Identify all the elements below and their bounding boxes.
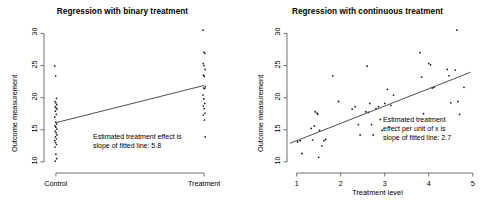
data-point-binary-control-16 <box>56 128 58 130</box>
data-point-continuous-25 <box>372 134 374 136</box>
data-point-continuous-27 <box>378 106 380 108</box>
data-point-continuous-18 <box>357 124 359 126</box>
data-point-continuous-29 <box>381 129 383 131</box>
data-point-continuous-5 <box>313 125 315 127</box>
data-point-continuous-17 <box>354 106 356 108</box>
data-point-continuous-4 <box>312 139 314 141</box>
y-tick-label-binary-20: 20 <box>30 89 39 103</box>
x-tick-label-binary-0: Control <box>36 179 76 188</box>
data-point-continuous-45 <box>456 29 458 31</box>
data-point-binary-control-19 <box>56 134 58 136</box>
data-point-continuous-38 <box>430 64 432 66</box>
y-tick-label-binary-25: 25 <box>30 57 39 71</box>
data-point-binary-control-21 <box>55 138 57 140</box>
data-point-continuous-43 <box>450 102 452 104</box>
data-point-continuous-20 <box>365 111 367 113</box>
data-point-binary-control-2 <box>56 97 58 99</box>
y-tick-label-binary-30: 30 <box>30 25 39 39</box>
data-point-binary-control-9 <box>55 110 57 112</box>
data-point-continuous-15 <box>338 101 340 103</box>
y-tick-label-continuous-25: 25 <box>273 57 282 71</box>
data-point-binary-treatment-11 <box>202 94 204 96</box>
data-point-binary-control-5 <box>56 104 58 106</box>
data-point-binary-control-24 <box>56 144 58 146</box>
data-point-binary-treatment-17 <box>203 114 205 116</box>
data-point-continuous-21 <box>366 65 368 67</box>
y-tick-label-continuous-10: 10 <box>273 153 282 167</box>
data-point-continuous-2 <box>301 153 303 155</box>
data-point-binary-control-10 <box>55 113 57 115</box>
data-point-binary-treatment-10 <box>204 88 206 90</box>
x-tick-label-continuous-1: 1 <box>277 179 317 188</box>
data-point-binary-control-22 <box>54 140 56 142</box>
data-point-binary-treatment-3 <box>202 63 204 65</box>
x-tick-label-continuous-2: 2 <box>321 179 361 188</box>
data-point-continuous-33 <box>393 94 395 96</box>
data-point-continuous-42 <box>448 75 450 77</box>
y-tick-label-continuous-20: 20 <box>273 89 282 103</box>
data-point-binary-control-15 <box>55 126 57 128</box>
x-tick-label-continuous-4: 4 <box>409 179 449 188</box>
data-point-binary-treatment-16 <box>204 112 206 114</box>
data-point-binary-treatment-5 <box>204 69 206 71</box>
data-point-continuous-48 <box>463 86 465 88</box>
data-point-continuous-0 <box>297 141 299 143</box>
data-point-binary-control-17 <box>54 130 56 132</box>
data-point-binary-control-13 <box>56 123 58 125</box>
data-point-binary-control-11 <box>54 116 56 118</box>
data-point-binary-treatment-13 <box>204 103 206 105</box>
data-point-binary-control-8 <box>56 108 58 110</box>
data-point-binary-control-0 <box>54 65 56 67</box>
fit-line-continuous <box>290 72 471 143</box>
data-point-continuous-16 <box>351 108 353 110</box>
data-point-continuous-13 <box>325 138 327 140</box>
data-point-continuous-31 <box>386 88 388 90</box>
data-point-binary-treatment-8 <box>204 86 206 88</box>
data-point-continuous-6 <box>314 111 316 113</box>
data-point-binary-control-23 <box>55 142 57 144</box>
data-point-binary-control-18 <box>55 132 57 134</box>
data-point-binary-treatment-4 <box>203 65 205 67</box>
data-point-binary-treatment-0 <box>202 29 204 31</box>
x-tick-label-continuous-3: 3 <box>365 179 405 188</box>
data-point-continuous-23 <box>369 103 371 105</box>
data-point-continuous-11 <box>321 145 323 147</box>
data-point-binary-control-4 <box>55 102 57 104</box>
data-point-continuous-35 <box>421 76 423 78</box>
data-point-binary-control-26 <box>55 153 57 155</box>
data-point-continuous-44 <box>454 69 456 71</box>
y-tick-label-binary-10: 10 <box>30 153 39 167</box>
data-point-continuous-24 <box>371 124 373 126</box>
data-point-binary-control-27 <box>56 158 58 160</box>
x-tick-label-binary-1: Treatment <box>184 179 224 188</box>
data-point-binary-treatment-18 <box>204 119 206 121</box>
data-point-continuous-30 <box>384 103 386 105</box>
fit-line-binary <box>56 85 204 122</box>
data-point-continuous-37 <box>428 63 430 65</box>
figure-root: Regression with binary treatment Outcome… <box>0 0 490 203</box>
data-point-binary-treatment-12 <box>203 98 205 100</box>
data-point-binary-treatment-14 <box>202 105 204 107</box>
data-point-continuous-1 <box>299 140 301 142</box>
x-tick-label-continuous-5: 5 <box>453 179 490 188</box>
plot-canvas <box>0 0 490 203</box>
data-point-binary-control-28 <box>54 160 56 162</box>
data-point-binary-treatment-19 <box>204 136 206 138</box>
data-point-binary-control-1 <box>55 75 57 77</box>
data-point-binary-treatment-2 <box>204 52 206 54</box>
y-tick-label-continuous-15: 15 <box>273 121 282 135</box>
data-point-binary-treatment-7 <box>204 76 206 78</box>
data-point-continuous-34 <box>419 52 421 54</box>
data-point-continuous-8 <box>317 113 319 115</box>
data-point-continuous-46 <box>457 101 459 103</box>
data-point-continuous-47 <box>459 113 461 115</box>
data-point-binary-control-20 <box>55 136 57 138</box>
y-tick-label-continuous-30: 30 <box>273 25 282 39</box>
data-point-continuous-9 <box>318 156 320 158</box>
data-point-continuous-36 <box>423 113 425 115</box>
data-point-continuous-41 <box>446 68 448 70</box>
data-point-continuous-32 <box>390 104 392 106</box>
data-point-continuous-12 <box>323 140 325 142</box>
data-point-binary-control-25 <box>54 146 56 148</box>
data-point-continuous-28 <box>379 119 381 121</box>
